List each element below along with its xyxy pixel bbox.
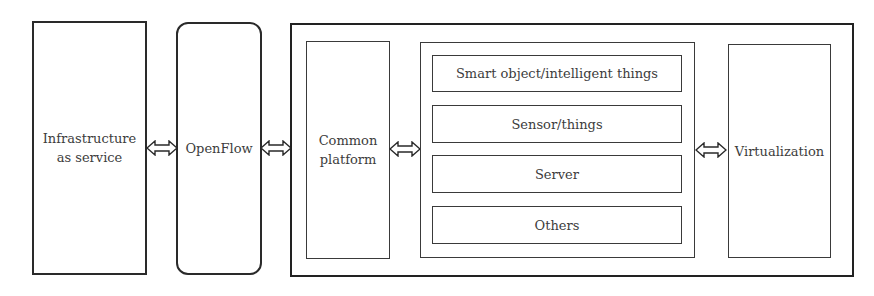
double-arrow-icon bbox=[146, 140, 178, 156]
double-arrow-icon bbox=[695, 142, 727, 158]
item-smart-object: Smart object/intelligent things bbox=[432, 55, 682, 92]
infrastructure-label: Infrastructure as service bbox=[43, 129, 137, 167]
item-label: Smart object/intelligent things bbox=[456, 64, 658, 83]
item-label: Sensor/things bbox=[511, 115, 602, 134]
item-label: Server bbox=[535, 165, 579, 184]
double-arrow-icon bbox=[389, 141, 421, 157]
double-arrow-icon bbox=[260, 140, 292, 156]
virtualization-label: Virtualization bbox=[735, 142, 824, 161]
item-label: Others bbox=[535, 216, 580, 235]
openflow-box: OpenFlow bbox=[176, 22, 262, 275]
openflow-label: OpenFlow bbox=[185, 139, 252, 158]
item-others: Others bbox=[432, 206, 682, 244]
common-platform-box: Common platform bbox=[306, 41, 390, 259]
item-server: Server bbox=[432, 155, 682, 193]
item-sensor-things: Sensor/things bbox=[432, 105, 682, 143]
common-platform-label: Common platform bbox=[319, 131, 378, 169]
virtualization-box: Virtualization bbox=[728, 44, 831, 258]
infrastructure-as-service-box: Infrastructure as service bbox=[32, 21, 147, 275]
